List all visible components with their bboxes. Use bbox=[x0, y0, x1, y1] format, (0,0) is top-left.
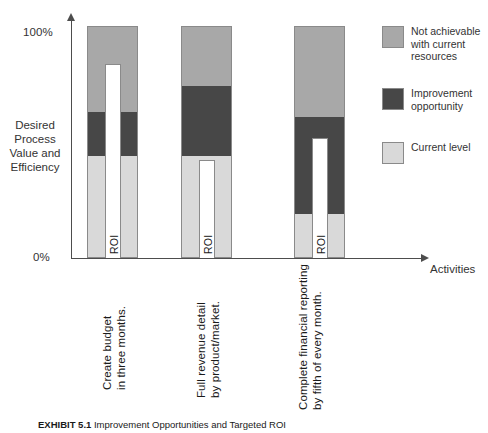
bar-3-roi-label: ROI bbox=[315, 235, 327, 254]
category-label-2-line-1: Full revenue detail bbox=[194, 302, 208, 398]
y-tick-100: 100% bbox=[23, 26, 53, 38]
exhibit-figure: 100% 0% Desired Process Value and Effici… bbox=[0, 0, 488, 433]
bar-2-segment-not-achievable bbox=[181, 26, 232, 86]
legend-swatch-not-achievable bbox=[382, 26, 404, 48]
category-label-3-line-2: by fifth of every month. bbox=[310, 291, 324, 410]
bar-2-segment-improvement bbox=[181, 86, 232, 156]
bar-group-3: ROI bbox=[294, 26, 345, 258]
x-axis-title: Activities bbox=[430, 263, 475, 275]
exhibit-caption-text: Improvement Opportunities and Targeted R… bbox=[91, 419, 286, 430]
bar-2-roi-label: ROI bbox=[202, 235, 214, 254]
legend-label-not-achievable: Not achievable with current resources bbox=[411, 25, 487, 63]
bar-1-roi-notch bbox=[105, 64, 121, 258]
legend-label-current-level: Current level bbox=[411, 141, 487, 154]
bar-3-segment-not-achievable bbox=[294, 26, 345, 117]
y-axis-title-line-3: Value and bbox=[4, 146, 66, 160]
y-axis-title-line-1: Desired bbox=[4, 118, 66, 132]
y-tick-0: 0% bbox=[33, 251, 50, 263]
bar-1-roi-label: ROI bbox=[108, 235, 120, 254]
y-axis-line bbox=[71, 20, 72, 259]
x-axis-arrow-icon bbox=[421, 254, 429, 262]
bar-group-2: ROI bbox=[181, 26, 232, 258]
x-axis-line bbox=[71, 258, 423, 259]
y-axis-title-line-4: Efficiency bbox=[4, 160, 66, 174]
y-axis-title-line-2: Process bbox=[4, 132, 66, 146]
category-label-3-line-1: Complete financial reporting bbox=[296, 264, 310, 410]
y-axis-title: Desired Process Value and Efficiency bbox=[4, 118, 66, 174]
bar-group-1: ROI bbox=[87, 26, 138, 258]
legend-swatch-current-level bbox=[382, 142, 404, 164]
category-label-2-line-2: by product/market. bbox=[208, 301, 222, 398]
category-label-1-line-1: Create budget bbox=[100, 316, 114, 390]
y-axis-arrow-icon bbox=[67, 13, 75, 21]
legend-label-improvement: Improvement opportunity bbox=[411, 87, 487, 112]
category-label-1-line-2: in three months. bbox=[114, 306, 128, 390]
legend-swatch-improvement bbox=[382, 88, 404, 110]
exhibit-caption: EXHIBIT 5.1 Improvement Opportunities an… bbox=[38, 419, 478, 431]
exhibit-caption-number: EXHIBIT 5.1 bbox=[38, 419, 91, 430]
